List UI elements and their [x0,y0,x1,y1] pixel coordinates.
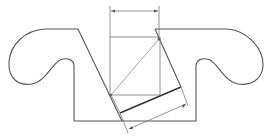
bottom-dimension-line [129,104,186,129]
outer-profile [9,29,263,121]
diagram-canvas [0,0,274,139]
rotated-rect-edge [120,87,181,113]
rotated-rect-side [111,95,120,113]
diagonal-end-dot [158,38,161,41]
left-flank [78,29,122,121]
dovetail-diagram [0,0,274,139]
square-diagonal [111,39,159,95]
bottom-extension-right [181,87,188,106]
bottom-extension-left [120,113,128,133]
top-arrow-left [111,10,115,13]
top-arrow-right [154,10,158,13]
inscribed-square [110,37,160,95]
bottom-arrow-left [129,126,133,129]
bottom-arrow-right [182,104,186,108]
